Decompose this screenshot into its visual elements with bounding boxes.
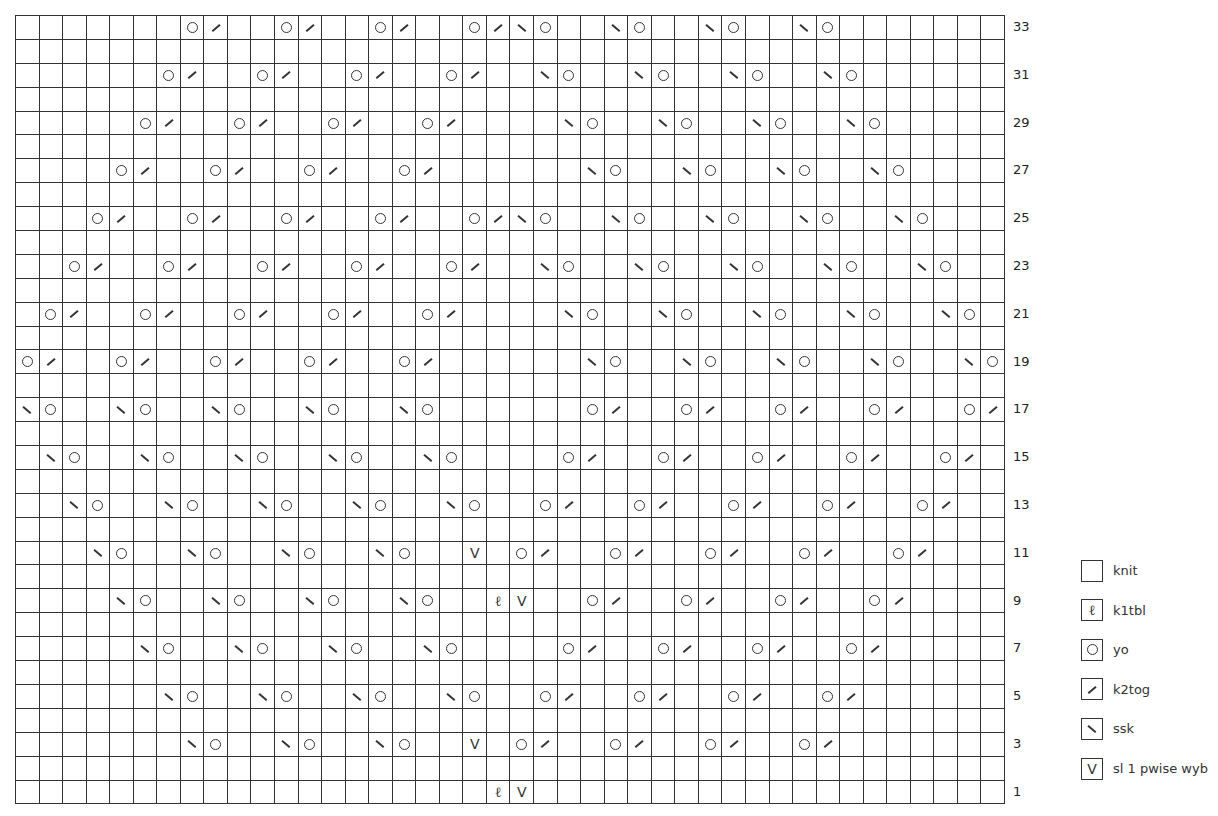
yo-icon bbox=[705, 739, 716, 750]
chart-cell bbox=[699, 231, 723, 255]
chart-cell bbox=[275, 159, 299, 183]
k1tbl-icon: ℓ bbox=[1089, 603, 1096, 617]
chart-cell bbox=[652, 327, 676, 351]
chart-cell bbox=[746, 64, 770, 88]
chart-cell bbox=[934, 279, 958, 303]
chart-cell bbox=[463, 494, 487, 518]
chart-cell bbox=[911, 613, 935, 637]
yo-icon bbox=[1087, 644, 1098, 655]
ssk-icon bbox=[141, 645, 150, 653]
chart-cell bbox=[911, 40, 935, 64]
chart-cell bbox=[770, 327, 794, 351]
chart-cell bbox=[346, 279, 370, 303]
chart-cell bbox=[817, 303, 841, 327]
chart-cell bbox=[722, 637, 746, 661]
chart-cell bbox=[440, 589, 464, 613]
chart-cell bbox=[770, 88, 794, 112]
chart-cell bbox=[675, 135, 699, 159]
chart-cell bbox=[628, 327, 652, 351]
chart-cell bbox=[322, 494, 346, 518]
chart-cell bbox=[110, 40, 134, 64]
chart-cell bbox=[346, 183, 370, 207]
chart-cell bbox=[628, 159, 652, 183]
chart-cell bbox=[322, 398, 346, 422]
chart-cell bbox=[440, 303, 464, 327]
chart-cell bbox=[416, 709, 440, 733]
k2tog-icon bbox=[565, 501, 574, 509]
chart-cell bbox=[605, 709, 629, 733]
chart-cell bbox=[16, 781, 40, 805]
yo-icon bbox=[610, 356, 621, 367]
chart-cell bbox=[605, 40, 629, 64]
chart-cell bbox=[87, 279, 111, 303]
chart-cell bbox=[628, 757, 652, 781]
chart-cell bbox=[157, 279, 181, 303]
chart-cell bbox=[157, 565, 181, 589]
yo-icon bbox=[469, 691, 480, 702]
chart-cell bbox=[652, 279, 676, 303]
chart-cell bbox=[958, 183, 982, 207]
chart-cell bbox=[675, 733, 699, 757]
legend-label: ssk bbox=[1113, 721, 1134, 736]
chart-cell bbox=[393, 470, 417, 494]
chart-cell bbox=[299, 446, 323, 470]
chart-cell bbox=[63, 231, 87, 255]
yo-icon bbox=[234, 309, 245, 320]
chart-cell bbox=[887, 135, 911, 159]
chart-cell bbox=[157, 422, 181, 446]
ssk-icon bbox=[965, 358, 974, 366]
chart-cell bbox=[204, 542, 228, 566]
chart-cell bbox=[157, 183, 181, 207]
yo-icon bbox=[281, 500, 292, 511]
yo-icon bbox=[658, 452, 669, 463]
chart-cell bbox=[487, 183, 511, 207]
chart-cell bbox=[722, 327, 746, 351]
chart-cell bbox=[793, 327, 817, 351]
chart-cell bbox=[770, 255, 794, 279]
chart-cell bbox=[510, 494, 534, 518]
chart-cell bbox=[63, 279, 87, 303]
ssk-icon bbox=[188, 740, 197, 748]
chart-cell bbox=[675, 16, 699, 40]
chart-cell bbox=[981, 542, 1005, 566]
chart-cell bbox=[958, 88, 982, 112]
ssk-icon bbox=[423, 645, 432, 653]
chart-cell bbox=[934, 685, 958, 709]
chart-cell bbox=[675, 709, 699, 733]
k2tog-icon bbox=[211, 215, 220, 223]
yo-icon bbox=[375, 213, 386, 224]
chart-cell bbox=[16, 542, 40, 566]
yo-icon bbox=[399, 739, 410, 750]
chart-cell bbox=[793, 757, 817, 781]
chart-cell bbox=[416, 64, 440, 88]
chart-cell bbox=[87, 781, 111, 805]
chart-cell bbox=[463, 135, 487, 159]
chart-cell bbox=[887, 398, 911, 422]
chart-cell bbox=[534, 64, 558, 88]
chart-cell bbox=[369, 661, 393, 685]
ssk-icon bbox=[447, 501, 456, 509]
chart-cell bbox=[181, 781, 205, 805]
chart-cell bbox=[181, 446, 205, 470]
chart-cell bbox=[157, 88, 181, 112]
k2tog-icon bbox=[117, 215, 126, 223]
chart-cell bbox=[322, 661, 346, 685]
chart-cell bbox=[157, 303, 181, 327]
chart-cell bbox=[440, 64, 464, 88]
chart-cell bbox=[87, 733, 111, 757]
chart-cell bbox=[699, 88, 723, 112]
chart-cell bbox=[510, 159, 534, 183]
chart-cell bbox=[87, 88, 111, 112]
chart-cell bbox=[463, 589, 487, 613]
chart-cell bbox=[487, 135, 511, 159]
chart-cell bbox=[934, 231, 958, 255]
yo-icon bbox=[234, 404, 245, 415]
chart-cell bbox=[581, 470, 605, 494]
chart-cell bbox=[911, 135, 935, 159]
chart-cell bbox=[251, 16, 275, 40]
k2tog-icon bbox=[824, 740, 833, 748]
chart-cell bbox=[110, 159, 134, 183]
chart-cell bbox=[110, 709, 134, 733]
chart-cell bbox=[699, 279, 723, 303]
k2tog-icon bbox=[824, 549, 833, 557]
